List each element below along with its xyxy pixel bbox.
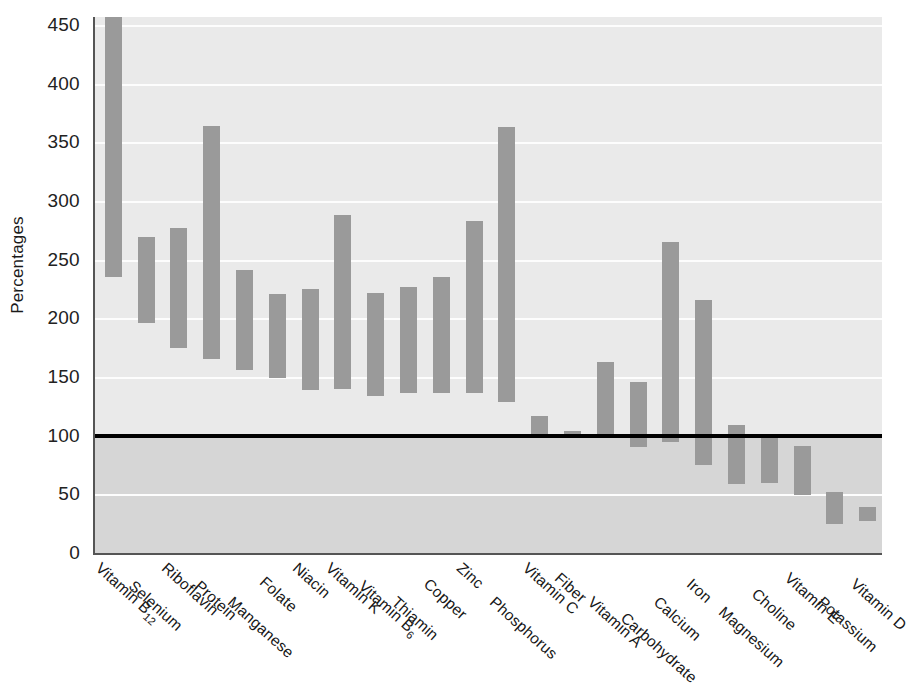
- bar-vitamin-a: [597, 362, 614, 438]
- y-tick-label: 300: [47, 190, 80, 212]
- gridline: [95, 25, 882, 27]
- x-axis-tick-labels: Vitamin B12SeleniumRiboflavinProteinMang…: [93, 553, 896, 671]
- bar-vitamin-b6: [367, 293, 384, 396]
- bar-niacin: [302, 289, 319, 390]
- bar-vitamin-b12: [105, 17, 122, 277]
- x-tick-label-text: Phosphorus: [487, 593, 561, 662]
- y-tick-label: 50: [58, 483, 80, 505]
- bar-calcium: [662, 242, 679, 441]
- bar-phosphorus: [498, 127, 515, 402]
- bar-vitamin-e: [794, 446, 811, 495]
- y-tick-label: 100: [47, 425, 80, 447]
- x-tick-label: Phosphorus: [486, 593, 561, 663]
- bar-vitamin-k: [334, 215, 351, 389]
- y-tick-label: 200: [47, 307, 80, 329]
- x-tick-label: Iron: [683, 575, 715, 607]
- x-tick-label: Zinc: [453, 559, 487, 593]
- x-tick-label-text: Zinc: [454, 559, 488, 592]
- x-tick-label-text: Folate: [257, 573, 301, 615]
- bar-vitamin-c: [531, 416, 548, 436]
- bar-manganese: [236, 270, 253, 370]
- gridline: [95, 494, 882, 496]
- bar-selenium: [138, 237, 155, 323]
- bar-zinc: [466, 221, 483, 393]
- gridline: [95, 377, 882, 379]
- bar-folate: [269, 294, 286, 378]
- bar-copper: [433, 277, 450, 393]
- y-tick-label: 350: [47, 131, 80, 153]
- y-axis-tick-labels: 050100150200250300350400450: [0, 0, 88, 560]
- plot-area: [93, 17, 882, 555]
- y-tick-label: 250: [47, 249, 80, 271]
- y-tick-label: 400: [47, 73, 80, 95]
- gridline: [95, 84, 882, 86]
- y-tick-label: 150: [47, 366, 80, 388]
- y-tick-label: 0: [69, 542, 80, 564]
- bar-vitamin-d: [859, 507, 876, 521]
- y-tick-label: 450: [47, 14, 80, 36]
- bar-potassium: [826, 492, 843, 524]
- bar-protein: [203, 126, 220, 359]
- x-tick-label: Folate: [256, 573, 301, 616]
- x-tick-label-text: Iron: [683, 575, 715, 606]
- bar-thiamin: [400, 287, 417, 394]
- reference-line-100-percent: [95, 434, 882, 438]
- bar-iron: [695, 300, 712, 465]
- bar-riboflavin: [170, 228, 187, 348]
- bar-choline: [761, 436, 778, 483]
